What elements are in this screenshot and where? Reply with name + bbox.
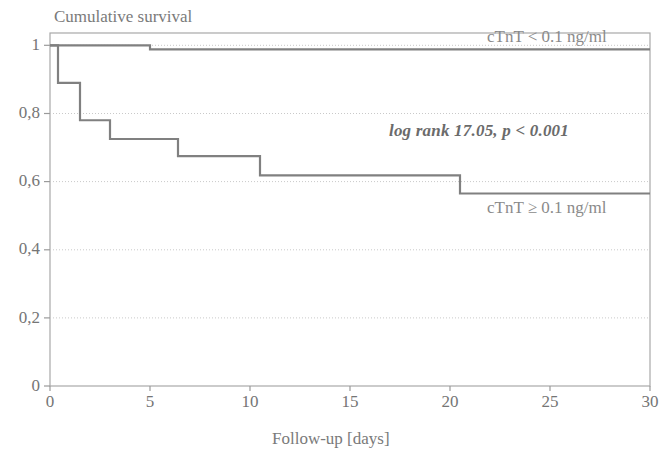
xtick-label-30: 30 <box>630 392 666 412</box>
ytick-label-0-8-holder: 0,8 <box>0 104 40 121</box>
xtick-label-5-holder: 5 <box>130 392 170 410</box>
xtick-label-15-holder: 15 <box>330 392 370 410</box>
xtick-label-0-holder: 0 <box>30 392 70 410</box>
xtick-label-10-holder: 10 <box>230 392 270 410</box>
ytick-label-0-6-holder: 0,6 <box>0 172 40 189</box>
xtick-label-10: 10 <box>230 392 270 412</box>
x-tick-marks <box>50 386 650 391</box>
ytick-label-0-2: 0,2 <box>0 309 40 326</box>
ytick-label-0-8: 0,8 <box>0 104 40 121</box>
ytick-label-0-6: 0,6 <box>0 172 40 189</box>
xtick-label-20: 20 <box>430 392 470 412</box>
ytick-label-1-holder: 1 <box>0 36 40 53</box>
plot-area <box>0 0 666 457</box>
ytick-label-0-4: 0,4 <box>0 240 40 257</box>
log-rank-annotation: log rank 17.05, p < 0.001 <box>389 122 569 139</box>
ytick-label-1: 1 <box>0 36 40 53</box>
xtick-label-15: 15 <box>330 392 370 412</box>
ytick-label-0-2-holder: 0,2 <box>0 309 40 326</box>
x-axis-title: Follow-up [days] <box>272 430 390 447</box>
xtick-label-25: 25 <box>530 392 570 412</box>
survival-chart-figure: Cumulative survival 1 0,8 0,6 0,4 0,2 0 … <box>0 0 666 457</box>
xtick-label-0: 0 <box>30 392 70 412</box>
curve-label-ctnt-high: cTnT ≥ 0.1 ng/ml <box>487 199 607 216</box>
xtick-label-20-holder: 20 <box>430 392 470 410</box>
ytick-label-0-4-holder: 0,4 <box>0 240 40 257</box>
chart-title: Cumulative survival <box>54 8 192 25</box>
xtick-label-25-holder: 25 <box>530 392 570 410</box>
xtick-label-30-holder: 30 <box>630 392 666 410</box>
curve-label-ctnt-low: cTnT < 0.1 ng/ml <box>487 28 607 45</box>
xtick-label-5: 5 <box>130 392 170 412</box>
y-tick-marks <box>44 45 50 386</box>
